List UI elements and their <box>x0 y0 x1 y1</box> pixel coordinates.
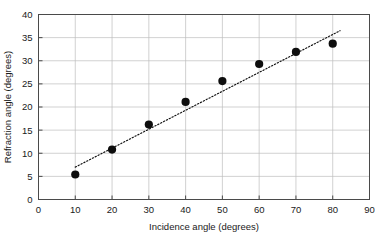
data-point <box>71 170 79 178</box>
x-tick-label: 10 <box>70 204 81 215</box>
data-point <box>329 40 337 48</box>
data-point <box>182 98 190 106</box>
x-tick-label: 0 <box>36 204 41 215</box>
data-point <box>292 48 300 56</box>
x-axis-tick-labels: 0102030405060708090 <box>36 204 375 215</box>
x-axis-tickmarks <box>39 196 370 200</box>
chart-canvas: 0102030405060708090 0510152025303540 Inc… <box>0 0 387 243</box>
trend-line <box>75 31 340 167</box>
horizontal-gridlines <box>39 15 370 177</box>
y-tick-label: 15 <box>22 125 33 136</box>
y-axis-title: Refraction angle (degrees) <box>2 51 13 163</box>
y-tick-label: 30 <box>22 55 33 66</box>
data-point <box>145 120 153 128</box>
y-tick-label: 35 <box>22 32 33 43</box>
x-tick-label: 30 <box>144 204 155 215</box>
y-axis-tick-labels: 0510152025303540 <box>22 9 33 205</box>
scatter-chart: 0102030405060708090 0510152025303540 Inc… <box>0 0 387 243</box>
x-tick-label: 80 <box>327 204 338 215</box>
x-tick-label: 40 <box>180 204 191 215</box>
x-tick-label: 90 <box>364 204 375 215</box>
x-axis-title: Incidence angle (degrees) <box>149 221 259 232</box>
data-point <box>255 60 263 68</box>
data-point <box>108 145 116 153</box>
y-axis-tickmarks <box>39 15 43 200</box>
x-tick-label: 60 <box>254 204 265 215</box>
y-tick-label: 20 <box>22 101 33 112</box>
y-tick-label: 25 <box>22 78 33 89</box>
y-tick-label: 10 <box>22 148 33 159</box>
x-tick-label: 70 <box>291 204 302 215</box>
x-tick-label: 20 <box>107 204 118 215</box>
y-tick-label: 5 <box>27 171 32 182</box>
y-tick-label: 0 <box>27 194 32 205</box>
y-tick-label: 40 <box>22 9 33 20</box>
x-tick-label: 50 <box>217 204 228 215</box>
data-point <box>218 77 226 85</box>
